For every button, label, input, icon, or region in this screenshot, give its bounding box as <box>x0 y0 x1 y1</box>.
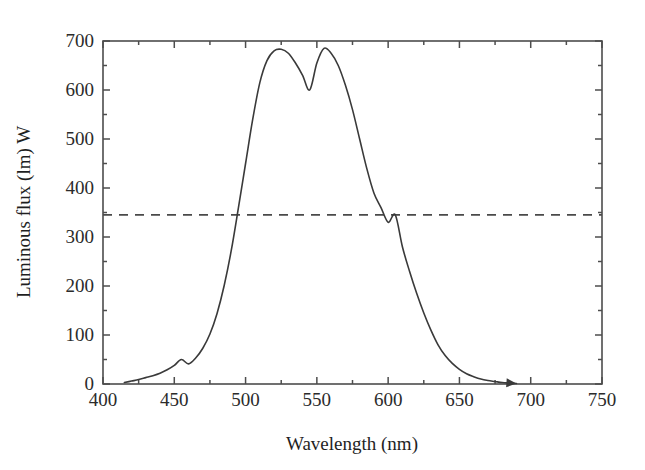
y-tick-label: 300 <box>66 226 95 247</box>
y-tick-label: 200 <box>66 275 95 296</box>
x-tick-label: 700 <box>516 389 545 410</box>
y-axis-title: Luminous flux (lm) W <box>13 126 35 298</box>
y-tick-label: 0 <box>85 373 95 394</box>
chart-figure: 400450500550600650700750 010020030040050… <box>0 0 645 470</box>
x-axis-title: Wavelength (nm) <box>286 433 418 455</box>
x-tick-label: 750 <box>588 389 617 410</box>
y-tick-label: 500 <box>66 128 95 149</box>
x-tick-label: 600 <box>374 389 403 410</box>
y-tick-label: 400 <box>66 177 95 198</box>
y-tick-label: 100 <box>66 324 95 345</box>
x-tick-label: 650 <box>445 389 474 410</box>
x-tick-label: 500 <box>231 389 260 410</box>
x-tick-label: 450 <box>160 389 189 410</box>
y-tick-label: 700 <box>66 30 95 51</box>
luminous-flux-chart: 400450500550600650700750 010020030040050… <box>0 0 645 470</box>
y-tick-label: 600 <box>66 79 95 100</box>
x-tick-label: 550 <box>303 389 332 410</box>
